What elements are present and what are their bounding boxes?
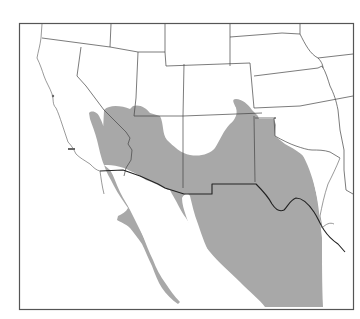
island-channel xyxy=(68,148,75,150)
pacific-coastline xyxy=(37,24,104,194)
range-map xyxy=(0,0,360,319)
island-small xyxy=(52,95,54,97)
gulf-of-california xyxy=(122,187,176,290)
